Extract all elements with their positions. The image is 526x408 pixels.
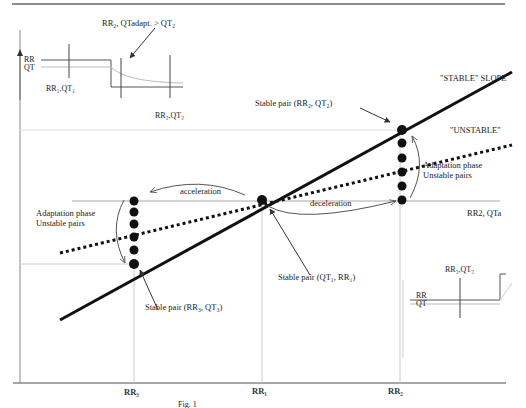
x-tick-rr1: RR₁ xyxy=(252,386,267,396)
inset-bottom-title: RR₃,QT₃ xyxy=(445,265,474,274)
stable-slope-label: "STABLE" SLOPE xyxy=(440,73,506,83)
stable-slope-line xyxy=(60,72,512,320)
pointer-top xyxy=(360,108,390,122)
stable-point-rr1 xyxy=(257,195,267,205)
inset-top-marker-left: RR₁,QT₁ xyxy=(46,84,75,93)
inset-bottom-qt-label: QT xyxy=(416,299,427,308)
adapt-left-line2: Unstable pairs xyxy=(36,218,85,228)
diagram-canvas: RR₂, QTadapt. > QT₂ RR QT RR₁,QT₁ RR₂,QT… xyxy=(0,0,526,408)
inset-bottom xyxy=(403,274,512,358)
adapt-arrow-left xyxy=(116,200,125,263)
x-tick-rr3: RR₃ xyxy=(124,387,139,397)
adapt-right-line2: Unstable pairs xyxy=(423,170,472,180)
inset-top xyxy=(17,28,183,100)
unstable-points-left xyxy=(130,197,139,255)
deceleration-label: deceleration xyxy=(310,198,352,208)
adapt-right-line1: Adaptation phase xyxy=(423,160,482,170)
stable-point-rr2 xyxy=(397,125,407,135)
pointer-mid xyxy=(270,209,310,275)
stable-pair-low-label: Stable pair (RR₃, QT₃) xyxy=(145,302,222,312)
unstable-points-right xyxy=(398,139,407,205)
inset-top-qt-label: QT xyxy=(24,63,35,72)
side-label: RR2, QTa xyxy=(467,208,502,218)
inset-top-title: RR₂, QTadapt. > QT₂ xyxy=(102,18,175,28)
stable-pair-top-label: Stable pair (RR₂, QT₂) xyxy=(255,98,332,108)
adapt-left-line1: Adaptation phase xyxy=(36,208,95,218)
acceleration-label: acceleration xyxy=(180,186,222,196)
inset-top-marker-right: RR₂,QT₂ xyxy=(155,111,184,120)
unstable-slope-label: "UNSTABLE" xyxy=(450,125,501,135)
figure-caption: Fig. 1 xyxy=(178,400,197,408)
x-tick-rr2: RR₂ xyxy=(388,386,403,396)
stable-point-rr3 xyxy=(129,259,139,269)
stable-pair-mid-label: Stable pair (QT₁, RR₁) xyxy=(278,272,355,282)
